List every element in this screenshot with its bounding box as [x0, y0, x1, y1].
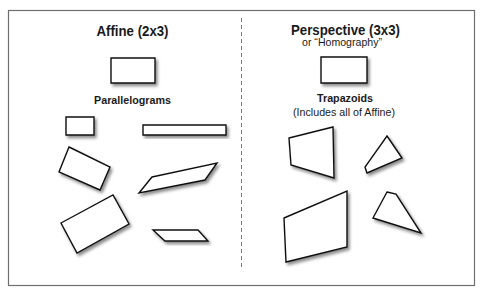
perspective-reference-rectangle [321, 57, 367, 83]
parallelogram-shape [66, 117, 94, 135]
perspective-subtitle: or “Homography” [302, 36, 382, 48]
affine-title: Affine (2x3) [97, 23, 169, 39]
affine-label: Parallelograms [94, 94, 171, 106]
perspective-label: Trapazoids [317, 92, 373, 104]
affine-reference-rectangle [111, 58, 155, 83]
perspective-sublabel: (Includes all of Affine) [293, 106, 395, 118]
affine-vs-perspective-diagram: Affine (2x3) Parallelograms Perspective … [0, 0, 483, 293]
parallelogram-shape [143, 125, 226, 135]
